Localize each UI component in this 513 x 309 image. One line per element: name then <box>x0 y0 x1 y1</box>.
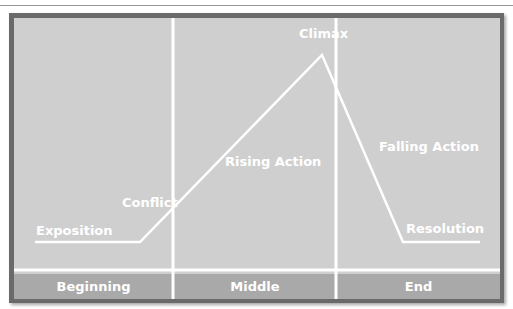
section-middle: Middle <box>174 279 336 294</box>
diagram-panel: Exposition Conflict Rising Action Climax… <box>9 13 504 303</box>
top-rule <box>0 5 513 6</box>
diagram-canvas: Exposition Conflict Rising Action Climax… <box>14 18 500 299</box>
label-resolution: Resolution <box>406 221 484 236</box>
label-conflict: Conflict <box>122 195 178 210</box>
label-falling-action: Falling Action <box>379 139 479 154</box>
section-beginning: Beginning <box>14 279 173 294</box>
label-climax: Climax <box>299 26 348 41</box>
section-end: End <box>337 279 500 294</box>
label-rising-action: Rising Action <box>225 154 321 169</box>
label-exposition: Exposition <box>36 223 113 238</box>
